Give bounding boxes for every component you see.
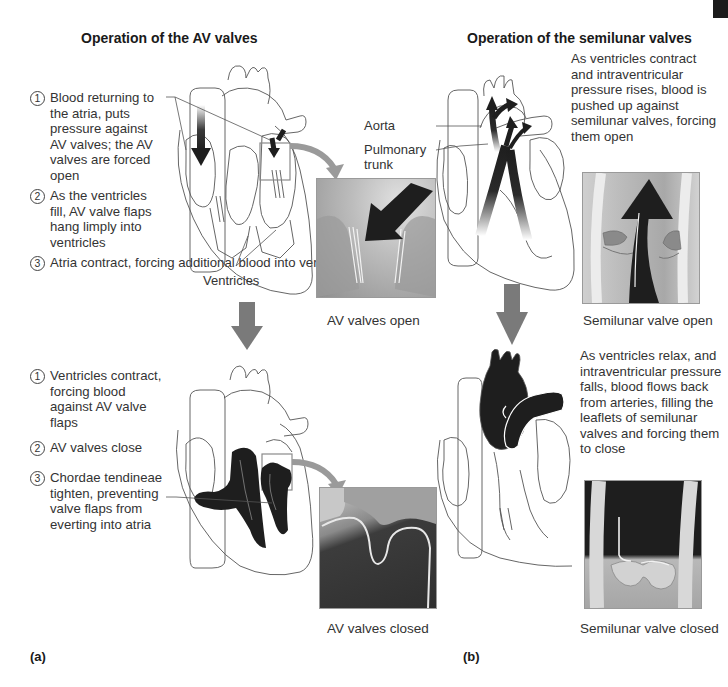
aorta-label: Aorta [364,118,395,133]
av-valves-open-closeup [316,178,436,298]
av-valves-open-caption: AV valves open [327,313,420,328]
part-label-a: (a) [30,649,46,664]
pulmonary-trunk-label: Pulmonary trunk [364,142,434,172]
av-closed-step-2: 2 AV valves close [30,440,170,456]
semilunar-valves-title: Operation of the semilunar valves [467,30,692,46]
av-closed-steps: 1 Ventricles contract, forcing blood aga… [30,368,170,532]
semilunar-valve-closed-closeup [584,480,702,609]
step-number-badge: 2 [30,441,45,456]
step-number-badge: 1 [30,369,45,384]
ventricles-label: Ventricles [203,273,259,288]
semilunar-closed-description: As ventricles relax, and intraventricula… [580,348,726,457]
semilunar-valve-closed-caption: Semilunar valve closed [580,621,719,636]
semilunar-valve-open-caption: Semilunar valve open [583,313,713,328]
av-closed-step-3: 3 Chordae tendineae tighten, preventing … [30,470,170,532]
semilunar-open-description: As ventricles contract and intraventricu… [571,51,721,144]
av-closed-step-1: 1 Ventricles contract, forcing blood aga… [30,368,170,430]
av-valves-closed-caption: AV valves closed [327,621,429,636]
step-number-badge: 3 [30,471,45,486]
semilunar-valve-open-closeup [582,172,700,304]
av-valves-closed-closeup [319,487,437,609]
part-label-b: (b) [463,649,480,664]
